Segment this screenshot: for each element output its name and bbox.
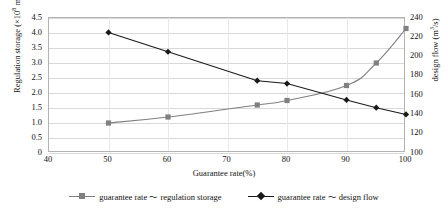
chart-figure: 00.51.01.52.02.53.03.54.04.5 10012014016… (0, 0, 448, 211)
data-point-diamond (343, 97, 349, 103)
legend-item-design-flow: guarantee rate ～ design flow (248, 190, 379, 202)
y-axis-left-tick-label: 0.5 (0, 133, 42, 142)
x-axis-tick-label: 70 (212, 155, 242, 164)
x-axis-tick-label: 60 (152, 155, 182, 164)
data-point-square (344, 83, 349, 88)
data-point-diamond (403, 111, 409, 117)
y-right-title-exponent: 3 (429, 27, 435, 30)
data-point-square (165, 114, 170, 119)
x-axis-tick-label: 90 (331, 155, 361, 164)
chart-legend: guarantee rate ～ regulation storage guar… (0, 190, 448, 202)
diamond-marker-icon (248, 191, 274, 201)
y-axis-left-title: Regulation storage (×108 m3) (12, 0, 22, 118)
data-point-square (284, 98, 289, 103)
y-right-title-post: /s) (430, 19, 440, 28)
data-point-diamond (373, 105, 379, 111)
x-axis-tick-label: 50 (93, 155, 123, 164)
x-axis-tick-label: 100 (390, 155, 420, 164)
y-right-title-pre: design flow (m (430, 30, 440, 81)
data-point-diamond (254, 78, 260, 84)
x-axis-tick-label: 40 (33, 155, 63, 164)
data-point-diamond (284, 80, 290, 86)
plot-area (48, 17, 405, 152)
series-canvas (49, 18, 406, 153)
legend-item-regulation-storage: guarantee rate ～ regulation storage (69, 190, 221, 202)
x-axis-title: Guarantee rate(%) (0, 168, 448, 178)
data-point-square (106, 120, 111, 125)
legend-label-regulation-storage: guarantee rate ～ regulation storage (99, 190, 221, 202)
x-axis-tick-label: 80 (271, 155, 301, 164)
square-marker-icon (69, 191, 95, 201)
series-line-design-flow (109, 32, 407, 114)
data-point-square (403, 26, 408, 31)
clipped-text-artifact (0, 0, 448, 7)
y-left-title-pre: Regulation storage (×10 (12, 11, 22, 93)
y-axis-left-tick-label: 1.0 (0, 118, 42, 127)
data-point-diamond (165, 49, 171, 55)
series-line-regulation-storage (109, 29, 407, 124)
y-left-title-mid: m (12, 0, 22, 8)
data-point-diamond (105, 29, 111, 35)
data-point-square (374, 60, 379, 65)
y-left-title-exponent: 8 (11, 8, 17, 11)
data-point-square (255, 102, 260, 107)
y-axis-right-title: design flow (m3/s) (430, 0, 440, 115)
legend-label-design-flow: guarantee rate ～ design flow (278, 190, 379, 202)
y-axis-right-tick-label: 120 (410, 128, 444, 137)
